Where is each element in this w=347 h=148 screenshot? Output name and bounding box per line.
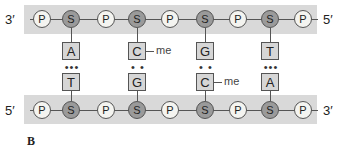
methyl-label: me — [224, 76, 239, 87]
methyl-bond — [214, 82, 222, 83]
top-stem — [205, 28, 206, 42]
phosphate: P — [97, 101, 115, 119]
base-top-1: A — [62, 42, 80, 60]
phosphate: P — [229, 10, 247, 28]
bottom-right-end-label: 3′ — [323, 104, 333, 117]
top-left-end-label: 3′ — [5, 13, 15, 26]
base-bottom-1: T — [62, 73, 80, 91]
phosphate: P — [161, 10, 179, 28]
sugar: S — [196, 10, 214, 28]
sugar: S — [196, 101, 214, 119]
base-bottom-3: C — [196, 73, 214, 91]
phosphate: P — [229, 101, 247, 119]
base-top-2: C — [128, 42, 146, 60]
sugar: S — [128, 101, 146, 119]
bottom-stem — [270, 91, 271, 101]
hydrogen-bonds: • • — [199, 62, 213, 73]
sugar: S — [261, 101, 279, 119]
bottom-stem — [71, 91, 72, 101]
phosphate: P — [33, 101, 51, 119]
phosphate: P — [294, 101, 312, 119]
figure-label: B — [27, 134, 35, 148]
bottom-stem — [205, 91, 206, 101]
phosphate: P — [97, 10, 115, 28]
hydrogen-bonds: ••• — [65, 62, 80, 73]
bottom-left-end-label: 5′ — [5, 104, 15, 117]
phosphate: P — [161, 101, 179, 119]
hydrogen-bonds: ••• — [264, 62, 279, 73]
sugar: S — [62, 10, 80, 28]
phosphate: P — [33, 10, 51, 28]
base-top-3: G — [196, 42, 214, 60]
base-bottom-2: G — [128, 73, 146, 91]
methyl-label: me — [156, 45, 171, 56]
sugar: S — [128, 10, 146, 28]
phosphate: P — [294, 10, 312, 28]
sugar: S — [62, 101, 80, 119]
top-stem — [71, 28, 72, 42]
hydrogen-bonds: • • — [131, 62, 145, 73]
base-bottom-4: A — [261, 73, 279, 91]
sugar: S — [261, 10, 279, 28]
bottom-stem — [137, 91, 138, 101]
methyl-bond — [146, 51, 154, 52]
top-stem — [270, 28, 271, 42]
base-top-4: T — [261, 42, 279, 60]
top-stem — [137, 28, 138, 42]
top-right-end-label: 5′ — [323, 13, 333, 26]
